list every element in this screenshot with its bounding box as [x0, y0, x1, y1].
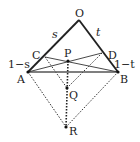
- geometry-figure: O A B C D P Q R s t 1−s 1−t: [0, 0, 140, 142]
- label-s: s: [52, 28, 58, 41]
- segment-PR: [66, 61, 68, 127]
- label-one-minus-t: 1−t: [114, 58, 135, 71]
- label-O: O: [75, 7, 84, 20]
- triangle-diagram: O A B C D P Q R s t 1−s 1−t: [0, 0, 140, 142]
- label-A: A: [16, 73, 26, 86]
- segment-AR: [28, 72, 66, 127]
- label-B: B: [120, 73, 128, 86]
- label-C: C: [32, 49, 40, 62]
- point-R-dot: [64, 125, 67, 128]
- label-one-minus-s: 1−s: [8, 58, 30, 71]
- segment-DQ: [67, 53, 102, 88]
- label-P: P: [64, 47, 72, 60]
- label-Q: Q: [69, 89, 78, 102]
- label-t: t: [96, 26, 101, 39]
- label-R: R: [69, 125, 78, 138]
